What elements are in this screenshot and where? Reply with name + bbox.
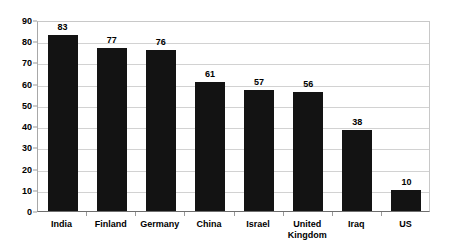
bar-value-label: 38 xyxy=(352,118,362,127)
bar-value-label: 76 xyxy=(156,38,166,47)
bar-slot: 38 xyxy=(333,22,382,211)
x-tick-mark xyxy=(135,212,136,216)
bar[interactable] xyxy=(48,35,78,211)
x-category-label: United Kingdom xyxy=(288,219,327,241)
bar-slot: 76 xyxy=(136,22,185,211)
bar[interactable] xyxy=(146,50,176,211)
y-tick-label: 90 xyxy=(22,17,32,26)
x-category-label: Germany xyxy=(140,219,179,230)
x-tick-mark xyxy=(234,212,235,216)
x-category-label: Iraq xyxy=(348,219,365,230)
bar-slot: 77 xyxy=(87,22,136,211)
x-category-label: Israel xyxy=(246,219,270,230)
bar[interactable] xyxy=(195,82,225,211)
x-category-label: Finland xyxy=(95,219,127,230)
x-category-label: China xyxy=(196,219,221,230)
bar[interactable] xyxy=(391,190,421,211)
bar-slot: 61 xyxy=(185,22,234,211)
y-tick-label: 70 xyxy=(22,59,32,68)
bar[interactable] xyxy=(244,90,274,211)
y-axis: 0102030405060708090 xyxy=(12,21,32,212)
x-tick-mark xyxy=(332,212,333,216)
bar-chart: 0102030405060708090 8377766157563810 Ind… xyxy=(0,0,450,244)
bar-slot: 83 xyxy=(38,22,87,211)
y-tick-label: 60 xyxy=(22,80,32,89)
bar-value-label: 77 xyxy=(107,36,117,45)
x-tick-mark xyxy=(184,212,185,216)
y-tick-label: 40 xyxy=(22,123,32,132)
plot-area: 8377766157563810 xyxy=(37,21,430,212)
bar-value-label: 83 xyxy=(58,23,68,32)
bar-value-label: 61 xyxy=(205,70,215,79)
bars-group: 8377766157563810 xyxy=(38,22,429,211)
y-tick-label: 80 xyxy=(22,38,32,47)
bar-value-label: 10 xyxy=(401,178,411,187)
x-tick-mark xyxy=(86,212,87,216)
bar-slot: 57 xyxy=(235,22,284,211)
bar[interactable] xyxy=(342,130,372,211)
x-category-label: US xyxy=(399,219,412,230)
x-axis: IndiaFinlandGermanyChinaIsraelUnited Kin… xyxy=(37,219,430,244)
bar-slot: 10 xyxy=(382,22,431,211)
x-category-label: India xyxy=(51,219,72,230)
x-tick-mark xyxy=(283,212,284,216)
y-tick-label: 30 xyxy=(22,144,32,153)
bar-value-label: 57 xyxy=(254,78,264,87)
y-tick-label: 0 xyxy=(27,208,32,217)
bar[interactable] xyxy=(293,92,323,211)
bar-slot: 56 xyxy=(284,22,333,211)
bar-value-label: 56 xyxy=(303,80,313,89)
bar[interactable] xyxy=(97,48,127,211)
y-tick-label: 10 xyxy=(22,186,32,195)
y-tick-label: 50 xyxy=(22,101,32,110)
x-tick-mark xyxy=(381,212,382,216)
y-tick-label: 20 xyxy=(22,165,32,174)
